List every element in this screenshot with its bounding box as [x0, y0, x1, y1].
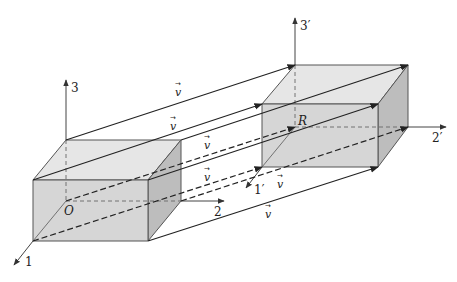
vector-label: → v [277, 172, 284, 191]
svg-text:v: v [170, 120, 177, 133]
vector-label: → v [265, 202, 272, 221]
translated-origin-label: R [297, 114, 307, 128]
svg-text:v: v [204, 139, 211, 152]
axis-2-label: 2 [214, 205, 222, 219]
translated-box [262, 65, 408, 167]
vector-label: → v [170, 114, 177, 133]
vector-label: → v [204, 165, 211, 184]
vector-top-back-left [66, 65, 295, 140]
original-box-front-face [33, 180, 148, 241]
axis-3-prime-label: 3′ [300, 19, 311, 33]
svg-text:v: v [277, 178, 284, 191]
svg-text:v: v [175, 86, 182, 99]
axis-3-label: 3 [71, 81, 79, 95]
translation-diagram: 3 2 1 O 3′ 2′ 1′ R → v → v → v → v → v →… [0, 0, 457, 282]
origin-label: O [64, 204, 74, 218]
axis-1-prime-label: 1′ [254, 183, 265, 197]
svg-text:v: v [265, 208, 272, 221]
axis-1-label: 1 [25, 255, 33, 269]
vector-label: → v [175, 80, 182, 99]
vector-label: → v [204, 133, 211, 152]
translated-box-front-face [262, 104, 378, 167]
vector-bottom-front-right [148, 167, 378, 241]
axis-2-prime-label: 2′ [432, 131, 443, 145]
svg-text:v: v [204, 171, 211, 184]
